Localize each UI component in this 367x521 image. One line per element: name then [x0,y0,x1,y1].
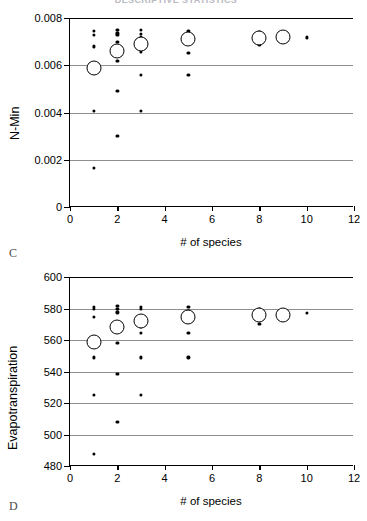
gridline [70,435,353,436]
data-point [116,311,119,314]
data-point [92,308,95,311]
x-axis-tick-label: 6 [209,472,215,484]
y-axis-tick [64,18,70,19]
x-axis-tick-label: 4 [162,472,168,484]
gridline [70,372,353,373]
gridline [70,403,353,404]
mean-marker [134,37,149,52]
x-axis-tick [165,206,166,211]
x-axis-tick-label: 8 [256,213,262,225]
x-axis-tick [307,206,308,211]
panel-letter-c: C [9,246,17,261]
data-point [116,33,119,36]
x-axis-tick-label: 10 [301,213,313,225]
y-axis-tick-label: 600 [44,271,62,283]
y-axis-tick-label: 480 [44,460,62,472]
y-axis-tick [64,435,70,436]
data-point [92,166,95,169]
x-axis-tick [354,206,355,211]
mean-marker [276,307,291,322]
y-axis-tick [64,65,70,66]
y-axis-tick-label: 500 [44,429,62,441]
data-point [92,33,95,36]
y-axis-tick [64,309,70,310]
data-point [92,394,95,397]
data-point [305,312,308,315]
x-axis-tick-label: 10 [301,472,313,484]
x-axis-tick [70,465,71,470]
y-axis-tick [64,160,70,161]
mean-marker [252,307,267,322]
plot-area-d: 480500520540560580600024681012 [69,277,353,466]
x-axis-tick-label: 0 [67,472,73,484]
y-axis-tick [64,340,70,341]
gridline [70,309,353,310]
x-axis-title-c: # of species [69,236,353,248]
y-axis-tick-label: 0.008 [34,12,62,24]
x-axis-tick [165,465,166,470]
x-axis-tick-label: 6 [209,213,215,225]
x-axis-tick [117,465,118,470]
x-axis-tick-label: 8 [256,472,262,484]
y-axis-tick-label: 0.006 [34,59,62,71]
y-axis-tick [64,113,70,114]
data-point [187,74,190,77]
data-point [116,420,119,423]
x-axis-tick-label: 2 [114,213,120,225]
gridline [70,65,353,66]
panel-d: 480500520540560580600024681012 # of spec… [0,266,367,521]
x-axis-tick [212,465,213,470]
gridline [70,160,353,161]
y-axis-tick [64,277,70,278]
figure-container: DESCRIPTIVE STATISTICS 00.0020.0040.0060… [0,0,367,521]
data-point [305,36,308,39]
mean-marker [134,314,149,329]
data-point [139,73,142,76]
mean-marker [276,30,291,45]
data-point [92,356,95,359]
y-axis-tick-label: 580 [44,303,62,315]
gridline [70,340,353,341]
x-axis-tick-label: 0 [67,213,73,225]
mean-marker [110,44,125,59]
mean-marker [181,310,196,325]
data-point [92,453,95,456]
y-axis-tick-label: 560 [44,334,62,346]
mean-marker [181,32,196,47]
x-axis-tick [354,465,355,470]
data-point [139,331,142,334]
y-axis-tick-label: 0 [56,201,62,213]
x-axis-tick-label: 2 [114,472,120,484]
x-axis-tick [259,206,260,211]
x-axis-tick [307,465,308,470]
plot-area-c: 00.0020.0040.0060.008024681012 [69,18,353,207]
data-point [92,45,95,48]
gridline [70,277,353,278]
y-axis-title-d: Evapotranspiration [6,346,20,450]
x-axis-tick-label: 4 [162,213,168,225]
x-axis-tick [70,206,71,211]
data-point [139,356,142,359]
gridline [70,113,353,114]
y-axis-tick-label: 540 [44,366,62,378]
mean-marker [86,60,101,75]
y-axis-title-c: N-Min [8,107,22,140]
data-point [116,135,119,138]
data-point [116,307,119,310]
data-point [187,331,190,334]
y-axis-tick-label: 0.002 [34,154,62,166]
mean-marker [252,31,267,46]
y-axis-tick-label: 0.004 [34,107,62,119]
mean-marker [86,334,101,349]
gridline [70,18,353,19]
panel-letter-d: D [9,499,18,514]
data-point [139,308,142,311]
x-axis-tick [117,206,118,211]
data-point [187,356,190,359]
x-axis-tick-label: 12 [348,472,360,484]
y-axis-tick-label: 520 [44,397,62,409]
data-point [116,342,119,345]
x-axis-title-d: # of species [69,495,353,507]
cutoff-title-text: DESCRIPTIVE STATISTICS [62,0,290,5]
data-point [187,51,190,54]
